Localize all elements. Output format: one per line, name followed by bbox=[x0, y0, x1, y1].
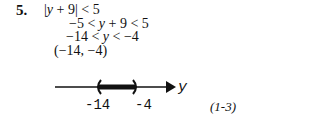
number-line-variable: y bbox=[178, 79, 187, 96]
tick-label-left: -14 bbox=[85, 97, 110, 113]
arrow-head-icon bbox=[166, 81, 176, 93]
tick-label-right: -4 bbox=[135, 97, 152, 113]
section-reference: (1-3) bbox=[210, 99, 236, 115]
